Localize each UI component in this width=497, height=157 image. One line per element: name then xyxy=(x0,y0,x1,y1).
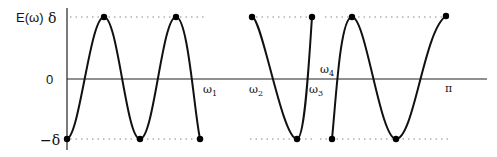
x-label-omega-1: ω1 xyxy=(203,83,217,98)
error-function-diagram: E(ω) δ 0 −δ ω1ω2ω3ω4π xyxy=(0,0,497,157)
y-axis-label: E(ω) xyxy=(16,10,43,25)
y-tick-neg-delta: −δ xyxy=(40,132,60,148)
y-tick-delta: δ xyxy=(48,10,56,26)
x-label-omega-4: ω4 xyxy=(320,63,334,78)
x-label-pi: π xyxy=(445,82,452,95)
y-tick-zero: 0 xyxy=(46,72,53,87)
x-label-omega-3: ω3 xyxy=(309,83,323,98)
x-label-omega-2: ω2 xyxy=(249,83,263,98)
x-labels: ω1ω2ω3ω4π xyxy=(203,63,452,98)
error-curve xyxy=(67,16,446,139)
delta-guides xyxy=(70,17,448,139)
